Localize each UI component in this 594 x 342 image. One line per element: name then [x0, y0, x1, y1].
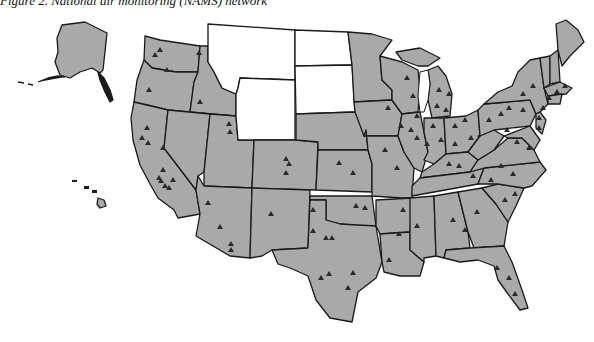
us-map [0, 0, 594, 342]
alaska-inset [18, 22, 113, 102]
state-south-dakota [295, 65, 355, 114]
state-washington [144, 36, 200, 72]
state-new-mexico [250, 188, 310, 258]
state-colorado [252, 140, 318, 190]
aleutian-islands [18, 76, 65, 85]
state-north-dakota [295, 30, 352, 66]
alaska-panhandle [98, 72, 113, 102]
state-alaska [55, 22, 107, 78]
state-new-jersey [536, 112, 546, 134]
state-maine [556, 20, 584, 66]
state-mississippi [410, 196, 436, 262]
contiguous-states [131, 20, 584, 322]
state-arizona [196, 176, 252, 258]
state-new-hampshire [550, 50, 560, 84]
state-florida [444, 246, 528, 310]
state-arkansas [376, 198, 412, 234]
state-wyoming [236, 78, 295, 140]
lake-michigan [418, 70, 430, 112]
hawaii-inset [72, 180, 106, 208]
state-hawaii [97, 198, 106, 208]
state-kansas [316, 150, 372, 192]
